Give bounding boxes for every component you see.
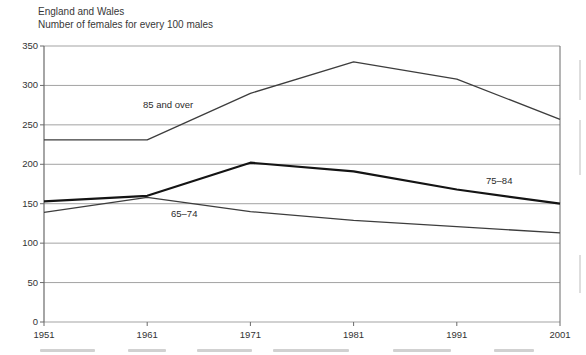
x-tick-label-2001: 2001 (540, 329, 580, 340)
chart-page: England and Wales Number of females for … (0, 0, 586, 355)
x-tick-label-1991: 1991 (437, 329, 477, 340)
y-tick-label-150: 150 (6, 198, 38, 209)
x-tick-label-1961: 1961 (127, 329, 167, 340)
x-tick-label-1971: 1971 (230, 329, 270, 340)
y-tick-label-350: 350 (6, 40, 38, 51)
y-tick-label-50: 50 (6, 277, 38, 288)
series-label-85-and-over: 85 and over (143, 99, 193, 110)
x-tick-label-1951: 1951 (24, 329, 64, 340)
y-tick-label-300: 300 (6, 79, 38, 90)
y-tick-label-100: 100 (6, 237, 38, 248)
y-tick-label-0: 0 (6, 316, 38, 327)
line-chart: 050100150200250300350 195119611971198119… (0, 0, 586, 355)
series-label-65-74: 65–74 (171, 208, 197, 219)
y-tick-label-200: 200 (6, 158, 38, 169)
y-tick-label-250: 250 (6, 119, 38, 130)
series-label-75-84: 75–84 (486, 175, 512, 186)
cutoff-footnote-sliver (0, 348, 586, 355)
x-tick-label-1981: 1981 (334, 329, 374, 340)
